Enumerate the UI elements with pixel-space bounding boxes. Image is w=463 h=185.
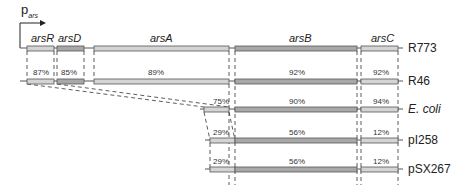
pct-pI258-arsC: 12% xyxy=(373,129,389,137)
gene-arsA: arsA xyxy=(150,33,173,44)
pct-R46-arsR: 87% xyxy=(33,69,49,77)
promoter-sub: ars xyxy=(28,12,38,19)
row-label-pI258: pI258 xyxy=(408,134,438,146)
row-label-pSX267: pSX267 xyxy=(408,163,451,175)
gene-arsC: arsC xyxy=(371,33,394,44)
pct-R46-arsA: 89% xyxy=(148,69,164,77)
gene-arsB: arsB xyxy=(289,33,312,44)
row-label-ecoli: E. coli xyxy=(408,103,441,115)
diagram-lines xyxy=(0,0,463,185)
pct-pSX267-arsB: 56% xyxy=(289,158,305,166)
row-label-R46: R46 xyxy=(408,75,430,87)
pct-pI258-arsR: 29% xyxy=(213,129,229,137)
pct-ecoli-arsC: 94% xyxy=(373,98,389,106)
pct-pSX267-arsC: 12% xyxy=(373,158,389,166)
pct-pSX267-arsR: 29% xyxy=(213,158,229,166)
gene-arsR: arsR xyxy=(31,33,54,44)
row-label-R773: R773 xyxy=(408,42,437,54)
pct-R46-arsD: 85% xyxy=(61,69,77,77)
pct-pI258-arsB: 56% xyxy=(289,129,305,137)
pct-ecoli-arsA: 75% xyxy=(213,98,229,106)
pct-R46-arsB: 92% xyxy=(289,69,305,77)
pct-R46-arsC: 92% xyxy=(373,69,389,77)
gene-arsD: arsD xyxy=(58,33,81,44)
pct-ecoli-arsB: 90% xyxy=(289,98,305,106)
promoter-label: pars xyxy=(21,4,38,22)
